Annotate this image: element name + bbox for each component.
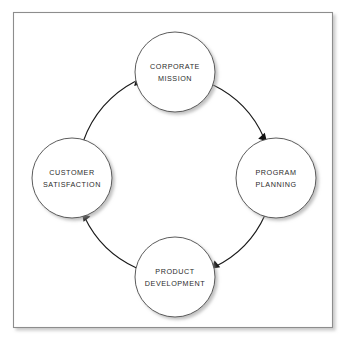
node-corporate-mission[interactable]: CORPORATE MISSION xyxy=(135,32,215,112)
node-circle[interactable] xyxy=(32,138,112,218)
node-product-development[interactable]: PRODUCT DEVELOPMENT xyxy=(135,237,215,317)
diagram-canvas: CORPORATE MISSION PROGRAM PLANNING PRODU… xyxy=(0,0,346,344)
node-label-line1: PROGRAM xyxy=(256,168,297,177)
node-circle[interactable] xyxy=(135,237,215,317)
node-circle[interactable] xyxy=(135,32,215,112)
node-label-line1: CORPORATE xyxy=(150,62,200,71)
cycle-diagram: CORPORATE MISSION PROGRAM PLANNING PRODU… xyxy=(0,0,346,344)
node-label-line2: PLANNING xyxy=(255,180,296,189)
node-label-line2: DEVELOPMENT xyxy=(145,279,205,288)
node-label-line2: SATISFACTION xyxy=(43,180,101,189)
node-customer-satisfaction[interactable]: CUSTOMER SATISFACTION xyxy=(32,138,112,218)
node-program-planning[interactable]: PROGRAM PLANNING xyxy=(236,138,316,218)
node-circle[interactable] xyxy=(236,138,316,218)
node-label-line1: CUSTOMER xyxy=(49,168,94,177)
node-label-line2: MISSION xyxy=(158,74,192,83)
node-label-line1: PRODUCT xyxy=(155,267,194,276)
